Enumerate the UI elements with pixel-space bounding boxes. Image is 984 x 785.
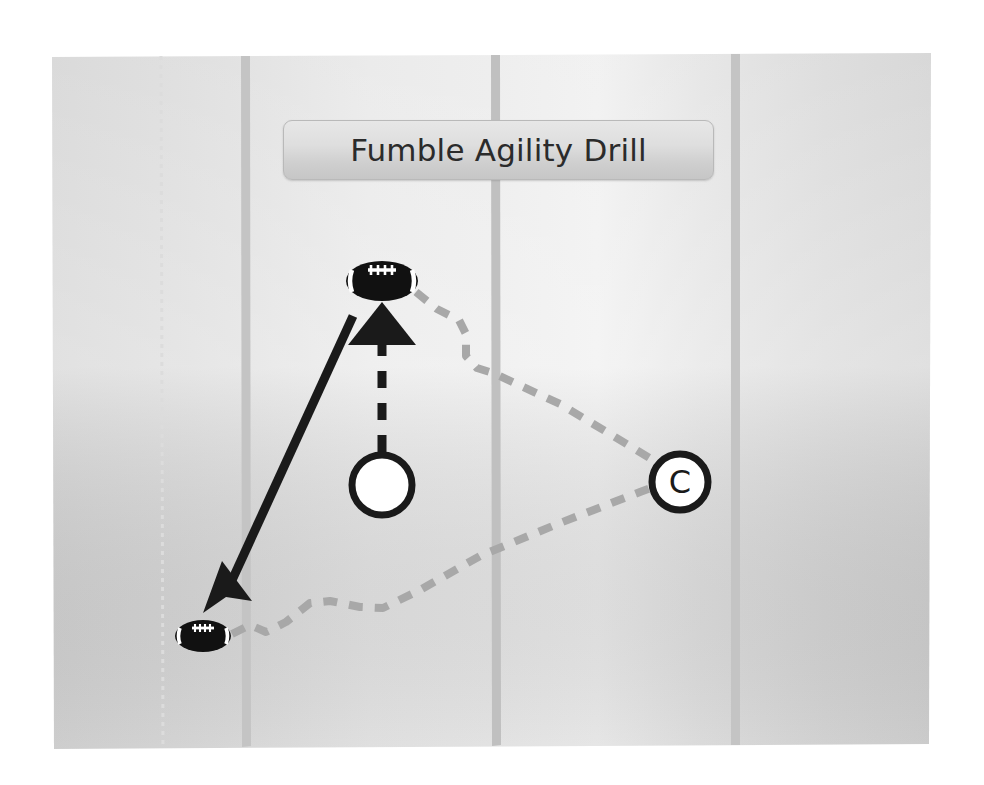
- coach-label: C: [669, 463, 691, 501]
- field-canvas: C: [0, 0, 984, 785]
- football-top: [346, 261, 418, 301]
- drill-diagram-page: C Fumble Agility Drill: [0, 0, 984, 785]
- player-circle-marker[interactable]: [352, 455, 412, 515]
- page-title: Fumble Agility Drill: [350, 132, 647, 168]
- coach-circle-marker[interactable]: C: [652, 454, 708, 510]
- football-bottom-left: [175, 620, 231, 652]
- drill-title-box: Fumble Agility Drill: [283, 120, 714, 180]
